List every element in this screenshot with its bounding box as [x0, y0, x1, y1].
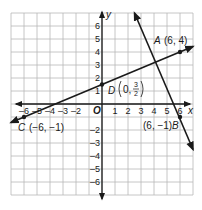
y-tick-label: 6 — [95, 21, 100, 31]
point-B — [178, 115, 182, 119]
x-tick-label: –2 — [71, 106, 81, 116]
point-C — [22, 115, 26, 119]
y-tick-label: –4 — [90, 151, 100, 161]
point-D-frac-den: 2 — [134, 90, 138, 97]
point-D-frac-num: 3 — [134, 81, 138, 88]
origin-label: O — [93, 105, 101, 116]
x-tick-label: 3 — [138, 106, 143, 116]
x-tick-label: –4 — [45, 106, 55, 116]
point-B-name: B — [172, 120, 179, 131]
y-tick-label: 2 — [95, 73, 100, 83]
y-axis-label: y — [105, 9, 112, 20]
point-label-D: D 0, 3 2 — [108, 81, 143, 97]
y-tick-label: –3 — [90, 138, 100, 148]
coordinate-plane: –6–5–4–3–2123456654321–2–3–4–5–6 y x O A… — [0, 0, 202, 210]
point-label-C: C (−6, −1) — [18, 122, 64, 133]
point-label-A: A (6, 4) — [153, 35, 187, 46]
y-tick-label: 1 — [95, 86, 100, 96]
x-axis-label: x — [187, 105, 194, 116]
point-A-name: A — [153, 35, 161, 46]
point-D-coord-prefix: 0, — [123, 84, 131, 95]
point-A-coords: (6, 4) — [164, 35, 187, 46]
y-tick-label: 3 — [95, 60, 100, 70]
x-tick-label: 4 — [151, 106, 156, 116]
point-label-B: (6, −1) B — [143, 120, 179, 131]
x-tick-label: 6 — [177, 106, 182, 116]
x-tick-label: –6 — [19, 106, 29, 116]
point-B-coords: (6, −1) — [143, 120, 172, 131]
x-tick-label: 1 — [112, 106, 117, 116]
point-D-name: D — [108, 85, 115, 96]
point-A — [178, 50, 182, 54]
x-tick-label: 5 — [164, 106, 169, 116]
point-C-name: C — [18, 122, 26, 133]
x-tick-label: 2 — [125, 106, 130, 116]
point-D — [100, 82, 104, 86]
x-tick-label: –3 — [58, 106, 68, 116]
y-tick-label: –2 — [90, 125, 100, 135]
x-tick-label: –5 — [32, 106, 42, 116]
y-tick-label: 5 — [95, 34, 100, 44]
y-tick-label: 4 — [95, 47, 100, 57]
y-tick-label: –6 — [90, 177, 100, 187]
y-tick-label: –5 — [90, 164, 100, 174]
point-C-coords: (−6, −1) — [29, 122, 64, 133]
paren-left — [119, 81, 121, 97]
